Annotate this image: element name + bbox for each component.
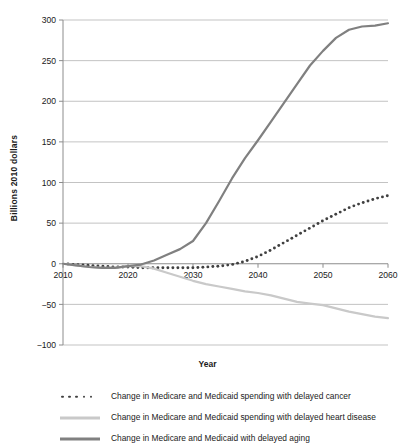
x-axis-title-text: Year — [0, 359, 415, 369]
svg-text:2060: 2060 — [378, 270, 397, 280]
y-axis-title-text: Billions 2010 dollars — [9, 135, 19, 221]
svg-text:50: 50 — [46, 218, 56, 228]
svg-text:150: 150 — [42, 137, 57, 147]
legend-item-label: Change in Medicare and Medicaid spending… — [111, 412, 376, 423]
legend-item[interactable]: Change in Medicare and Medicaid spending… — [0, 407, 415, 428]
svg-text:−100: −100 — [37, 340, 57, 350]
svg-text:−50: −50 — [41, 300, 56, 310]
legend-item-label: Change in Medicare and Medicaid spending… — [111, 391, 351, 402]
legend-item-label: Change in Medicare and Medicaid with del… — [111, 433, 310, 444]
svg-text:0: 0 — [51, 259, 56, 269]
legend-line — [60, 416, 100, 419]
legend-swatch-solid-icon — [60, 433, 100, 444]
legend-item[interactable]: Change in Medicare and Medicaid with del… — [0, 428, 415, 447]
legend-line — [60, 437, 100, 440]
legend-item[interactable]: Change in Medicare and Medicaid spending… — [0, 386, 415, 407]
svg-text:200: 200 — [42, 96, 57, 106]
svg-text:250: 250 — [42, 56, 57, 66]
svg-text:2040: 2040 — [248, 270, 267, 280]
chart-container: −100−50050100150200250300201020202030204… — [0, 0, 415, 447]
svg-text:100: 100 — [42, 178, 57, 188]
legend-swatch-solid-icon — [60, 412, 100, 423]
legend-dot — [90, 395, 93, 398]
legend-dot — [75, 395, 78, 398]
chart-plot-area: −100−50050100150200250300201020202030204… — [0, 0, 415, 360]
chart-legend: Change in Medicare and Medicaid spending… — [0, 386, 415, 447]
svg-text:2020: 2020 — [118, 270, 137, 280]
svg-text:2050: 2050 — [313, 270, 332, 280]
y-axis-title: Billions 2010 dollars — [6, 108, 22, 248]
legend-dot — [83, 395, 86, 398]
legend-dot — [61, 395, 64, 398]
legend-swatch-dotted-icon — [60, 391, 100, 402]
legend-dot — [68, 395, 71, 398]
svg-text:300: 300 — [42, 15, 57, 25]
svg-text:2010: 2010 — [53, 270, 72, 280]
